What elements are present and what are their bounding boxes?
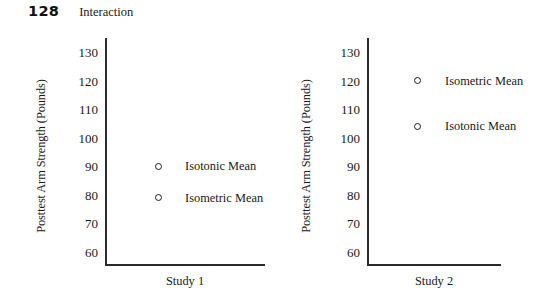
y-tick-60: 60 (347, 245, 360, 258)
page-running-head: 128 Interaction (28, 3, 133, 20)
data-point-marker (155, 194, 162, 201)
chart-panel-study-1: Posttest Arm Strength (Pounds) 130 120 1… (18, 30, 280, 288)
y-axis-label: Posttest Arm Strength (Pounds) (34, 46, 48, 266)
y-tick-120: 120 (79, 74, 99, 87)
data-point-label: Isotonic Mean (445, 119, 516, 134)
running-title: Interaction (79, 5, 133, 20)
y-tick-130: 130 (341, 46, 361, 59)
y-tick-110: 110 (79, 103, 98, 116)
y-tick-100: 100 (341, 131, 361, 144)
x-axis-line (367, 264, 501, 266)
y-axis-line (367, 38, 369, 266)
y-tick-90: 90 (347, 160, 360, 173)
y-tick-60: 60 (85, 245, 98, 258)
y-tick-80: 80 (85, 188, 98, 201)
y-tick-70: 70 (347, 217, 360, 230)
plot-area: 130 120 110 100 90 80 70 60 Isotonic Mea… (105, 38, 265, 266)
y-tick-80: 80 (347, 188, 360, 201)
y-tick-110: 110 (341, 103, 360, 116)
data-point-label: Isometric Mean (445, 73, 523, 88)
chart-panel-study-2: Posttest Arm Strength (Pounds) 130 120 1… (283, 30, 551, 288)
data-point-marker (414, 123, 421, 130)
data-point-label: Isometric Mean (185, 190, 263, 205)
page-number: 128 (28, 3, 59, 19)
y-tick-100: 100 (79, 131, 99, 144)
x-axis-label: Study 1 (105, 274, 265, 288)
y-tick-130: 130 (79, 46, 99, 59)
y-tick-70: 70 (85, 217, 98, 230)
x-axis-label: Study 2 (367, 274, 501, 288)
y-tick-90: 90 (85, 160, 98, 173)
data-point-label: Isotonic Mean (185, 159, 256, 174)
data-point-marker (414, 77, 421, 84)
y-axis-label: Posttest Arm Strength (Pounds) (299, 46, 313, 266)
plot-area: 130 120 110 100 90 80 70 60 Isometric Me… (367, 38, 501, 266)
x-axis-line (105, 264, 265, 266)
data-point-marker (155, 163, 162, 170)
y-axis-line (105, 38, 107, 266)
y-tick-120: 120 (341, 74, 361, 87)
